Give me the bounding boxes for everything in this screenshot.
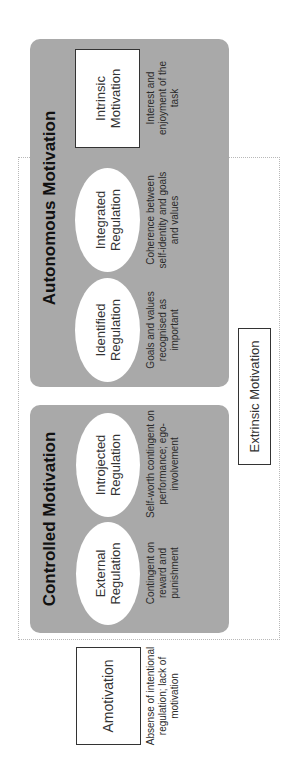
integrated-regulation-description: Coherence between self-identity and goal… [145,167,181,273]
external-regulation-label-line2: Regulation [108,542,123,604]
intrinsic-motivation-box: Intrinsic Motivation [75,49,140,148]
motivation-continuum-diagram: Controlled Motivation Autonomous Motivat… [0,0,292,763]
autonomous-motivation-title: Autonomous Motivation [40,29,60,387]
external-regulation-description: Contingent on reward and punishment [145,533,181,613]
external-regulation-ellipse: External Regulation [76,522,140,625]
identified-regulation-label-line1: Identified [93,299,108,361]
introjected-regulation-ellipse: Introjected Regulation [76,413,140,517]
identified-regulation-label-line2: Regulation [108,299,123,361]
intrinsic-motivation-label-line1: Intrinsic [93,69,108,128]
amotivation-description: Absense of intentional regulation; lack … [145,637,181,755]
integrated-regulation-ellipse: Integrated Regulation [75,168,140,272]
external-regulation-label-line1: External [93,542,108,604]
amotivation-box: Amotivation [76,647,141,745]
intrinsic-motivation-label-line2: Motivation [108,69,123,128]
identified-regulation-ellipse: Identified Regulation [75,278,140,382]
intrinsic-motivation-description: Interest and enjoyment of the task [145,55,181,141]
integrated-regulation-label-line1: Integrated [93,189,108,251]
introjected-regulation-description: Self-worth contingent on performance; eg… [145,407,181,521]
amotivation-label: Amotivation [101,659,116,732]
introjected-regulation-label-line2: Regulation [108,434,123,496]
extrinsic-motivation-box: Extrinsic Motivation [238,328,271,465]
identified-regulation-description: Goals and values recognised as important [145,285,181,375]
introjected-regulation-label-line1: Introjected [93,434,108,496]
extrinsic-motivation-label: Extrinsic Motivation [247,341,262,453]
controlled-motivation-title: Controlled Motivation [40,405,60,633]
integrated-regulation-label-line2: Regulation [108,189,123,251]
